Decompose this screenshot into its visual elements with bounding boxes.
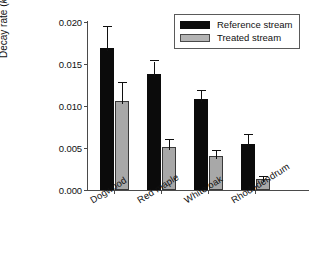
y-axis-title-text: Decay rate (	[0, 4, 9, 58]
legend-swatch-ref	[180, 21, 210, 29]
bar-chart-figure: Decay rate (k) 0.0000.0050.0100.0150.020…	[0, 0, 325, 267]
y-axis-title-symbol: k	[0, 0, 9, 4]
legend-item-ref: Reference stream	[180, 18, 293, 31]
error-bar-stem	[216, 151, 217, 160]
error-bar-stem	[107, 27, 108, 51]
chart-legend: Reference streamTreated stream	[174, 14, 300, 49]
legend-item-trt: Treated stream	[180, 31, 293, 44]
y-axis-tick-mark	[84, 106, 88, 107]
y-axis-tick-mark	[84, 148, 88, 149]
y-axis-tick-label: 0.000	[59, 185, 82, 196]
bar-dogwood-reference	[100, 48, 114, 190]
bar-red-maple-reference	[147, 74, 161, 190]
y-axis-tick-label: 0.015	[59, 59, 82, 70]
error-bar-stem	[201, 91, 202, 102]
error-bar-cap	[165, 139, 174, 140]
y-axis-title: Decay rate (k)	[0, 0, 9, 58]
y-axis-tick-label: 0.005	[59, 143, 82, 154]
error-bar-cap	[150, 60, 159, 61]
legend-swatch-trt	[180, 34, 210, 42]
bar-white-oak-reference	[194, 99, 208, 190]
error-bar-stem	[122, 83, 123, 104]
y-axis-tick-mark	[84, 22, 88, 23]
legend-label: Treated stream	[217, 32, 281, 43]
error-bar-cap	[103, 26, 112, 27]
y-axis-tick-label: 0.020	[59, 17, 82, 28]
error-bar-stem	[154, 62, 155, 78]
legend-label: Reference stream	[217, 19, 293, 30]
error-bar-cap	[197, 90, 206, 91]
y-axis-tick-label: 0.010	[59, 101, 82, 112]
error-bar-cap	[244, 134, 253, 135]
y-axis-tick-mark	[84, 64, 88, 65]
error-bar-stem	[169, 140, 170, 151]
error-bar-stem	[248, 135, 249, 147]
error-bar-cap	[118, 82, 127, 83]
y-axis-tick-mark	[84, 190, 88, 191]
error-bar-cap	[212, 150, 221, 151]
